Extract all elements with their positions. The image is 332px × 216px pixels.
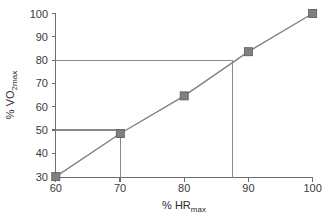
y-tick-label: 80 (36, 54, 48, 66)
y-tick-label: 70 (36, 77, 48, 89)
chart-container: 100 90 80 70 60 50 40 30 60 70 80 90 100 (0, 0, 332, 216)
data-point-marker[interactable] (52, 173, 60, 181)
y-axis-title-text: % VO (4, 90, 16, 119)
x-axis-title-text: % HR (162, 199, 191, 211)
x-tick-label: 70 (114, 182, 126, 194)
data-point-marker[interactable] (244, 48, 252, 56)
y-tick-label: 100 (30, 8, 48, 20)
x-tick-label: 80 (178, 182, 190, 194)
data-point-marker[interactable] (180, 92, 188, 100)
chart-svg: 100 90 80 70 60 50 40 30 60 70 80 90 100 (0, 0, 332, 216)
data-point-marker[interactable] (309, 10, 317, 18)
x-tick-label: 90 (242, 182, 254, 194)
y-axis-title-subscript: 2max (10, 71, 19, 91)
y-tick-label: 90 (36, 31, 48, 43)
y-tick-label: 40 (36, 147, 48, 159)
x-tick-label: 100 (303, 182, 321, 194)
x-axis-title-subscript: max (191, 205, 206, 214)
y-tick-label: 30 (36, 171, 48, 183)
y-tick-label: 60 (36, 101, 48, 113)
data-point-marker[interactable] (116, 130, 124, 138)
y-tick-label: 50 (36, 124, 48, 136)
x-tick-label: 60 (50, 182, 62, 194)
